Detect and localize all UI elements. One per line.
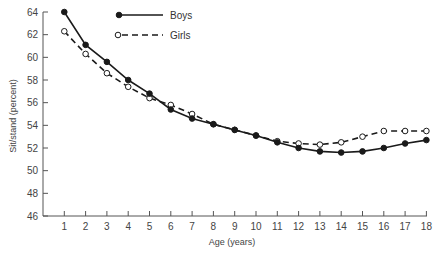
open-circle-marker-icon [104, 70, 110, 76]
x-tick-label: 7 [189, 221, 195, 232]
open-circle-marker-icon [125, 84, 131, 90]
y-tick-label: 46 [27, 211, 39, 222]
filled-circle-marker-icon [211, 121, 217, 127]
legend-label-girls: Girls [170, 30, 191, 41]
filled-circle-marker-icon [232, 127, 238, 133]
y-tick-label: 56 [27, 97, 39, 108]
x-tick-label: 18 [421, 221, 433, 232]
filled-circle-marker-icon [317, 149, 323, 155]
y-tick-label: 60 [27, 52, 39, 63]
filled-circle-marker-icon [62, 9, 68, 15]
filled-circle-marker-icon [424, 137, 430, 143]
series-layer [62, 9, 430, 155]
open-circle-marker-icon [338, 140, 344, 146]
x-tick-label: 1 [62, 221, 68, 232]
x-tick-label: 17 [400, 221, 412, 232]
open-circle-marker-icon [317, 142, 323, 148]
x-tick-label: 15 [357, 221, 369, 232]
filled-circle-marker-icon [83, 42, 89, 48]
filled-circle-marker-icon [338, 150, 344, 156]
legend-item-girls: Girls [115, 30, 190, 41]
x-tick-label: 16 [378, 221, 390, 232]
open-circle-marker-icon [62, 28, 68, 34]
x-tick-label: 12 [293, 221, 305, 232]
line-chart: 46485052545658606264 1234567891011121314… [0, 0, 438, 256]
y-tick-label: 48 [27, 188, 39, 199]
x-tick-label: 3 [104, 221, 110, 232]
series-line-girls [64, 31, 426, 144]
x-axis-title: Age (years) [209, 237, 256, 247]
x-tick-label: 14 [336, 221, 348, 232]
x-tick-label: 9 [232, 221, 238, 232]
y-tick-label: 64 [27, 7, 39, 18]
open-circle-marker-icon [424, 128, 430, 134]
legend-label-boys: Boys [170, 10, 192, 21]
open-circle-marker-icon [402, 128, 408, 134]
open-circle-marker-icon [381, 128, 387, 134]
y-tick-label: 54 [27, 120, 39, 131]
filled-circle-marker-icon [253, 133, 259, 139]
series-girls [62, 28, 430, 147]
open-circle-marker-icon [115, 32, 121, 38]
filled-circle-marker-icon [296, 145, 302, 151]
x-tick-label: 2 [83, 221, 89, 232]
filled-circle-marker-icon [189, 116, 195, 122]
legend-item-boys: Boys [116, 10, 192, 21]
open-circle-marker-icon [83, 51, 89, 57]
x-axis: 123456789101112131415161718 [43, 211, 432, 232]
filled-circle-marker-icon [125, 77, 131, 83]
filled-circle-marker-icon [116, 12, 122, 18]
filled-circle-marker-icon [381, 145, 387, 151]
filled-circle-marker-icon [275, 140, 281, 146]
filled-circle-marker-icon [360, 149, 366, 155]
legend: Boys Girls [115, 10, 192, 41]
open-circle-marker-icon [360, 134, 366, 140]
y-tick-label: 52 [27, 143, 39, 154]
x-tick-label: 5 [147, 221, 153, 232]
x-tick-label: 8 [211, 221, 217, 232]
filled-circle-marker-icon [168, 107, 174, 113]
filled-circle-marker-icon [402, 141, 408, 147]
filled-circle-marker-icon [104, 59, 110, 65]
x-tick-label: 4 [125, 221, 131, 232]
y-axis: 46485052545658606264 [27, 7, 48, 222]
filled-circle-marker-icon [147, 91, 153, 97]
y-tick-label: 62 [27, 29, 39, 40]
y-tick-label: 58 [27, 75, 39, 86]
x-tick-label: 13 [314, 221, 326, 232]
y-axis-title: Sit/stand (percent) [8, 79, 18, 153]
y-tick-label: 50 [27, 165, 39, 176]
x-tick-label: 11 [272, 221, 283, 232]
x-tick-label: 6 [168, 221, 174, 232]
x-tick-label: 10 [250, 221, 262, 232]
